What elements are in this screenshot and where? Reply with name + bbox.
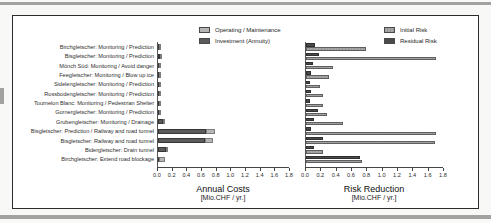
bar-operating xyxy=(160,54,162,59)
category-label: Birchgletscher: Monitoring / Prediction xyxy=(15,44,154,50)
bar-initial-risk xyxy=(306,141,435,144)
axis-tick-label: 1.0 xyxy=(226,172,234,178)
bar-residual-risk xyxy=(306,146,314,149)
axis-tick xyxy=(412,168,413,171)
legend-label: Residual Risk xyxy=(400,38,437,44)
bar-initial-risk xyxy=(306,122,343,125)
figure-canvas: Birchgletscher: Monitoring / PredictionB… xyxy=(0,0,491,223)
figure-frame: Birchgletscher: Monitoring / PredictionB… xyxy=(12,15,479,209)
page-edge-band-left xyxy=(0,88,4,104)
axis-tick xyxy=(336,168,337,171)
category-label: Feegletscher: Monitoring / Blow up ice xyxy=(15,72,154,78)
bar-operating xyxy=(159,157,165,162)
axis-tick-label: 0.2 xyxy=(168,172,176,178)
bar-operating xyxy=(159,110,161,115)
axis-tick-label: 1.0 xyxy=(378,172,386,178)
axis-tick xyxy=(351,168,352,171)
bar-initial-risk xyxy=(306,150,323,153)
bar-initial-risk xyxy=(306,66,333,69)
annual-costs-unit: [Mio.CHF / yr.] xyxy=(157,194,289,202)
annual-costs-title: Annual Costs xyxy=(157,184,289,194)
bar-initial-risk xyxy=(306,104,323,107)
axis-tick-label: 0.2 xyxy=(316,172,324,178)
axis-tick-label: 0.6 xyxy=(197,172,205,178)
risk-reduction-unit: [Mio.CHF / yr.] xyxy=(305,194,443,202)
axis-tick-label: 0.0 xyxy=(153,172,161,178)
axis-tick xyxy=(397,168,398,171)
legend-label: Operating / Maintenance xyxy=(215,27,281,33)
bar-residual-risk xyxy=(306,118,314,121)
axis-tick xyxy=(382,168,383,171)
category-label: Gornergletscher: Monitoring / Prediction xyxy=(15,109,154,115)
bar-initial-risk xyxy=(306,57,436,60)
legend-label: Investment (Annuity) xyxy=(215,38,270,44)
legend-swatch xyxy=(199,38,210,44)
bar-initial-risk xyxy=(306,47,366,50)
axis-tick-label: 1.2 xyxy=(393,172,401,178)
legend-item: Operating / Maintenance xyxy=(199,24,281,35)
category-label: Tournelon Blanc: Monitoring / Pedestrian… xyxy=(15,100,154,106)
bar-operating xyxy=(206,129,215,134)
bar-operating xyxy=(159,72,161,77)
bar-operating xyxy=(159,63,161,68)
category-label: Bisgletscher: Prediction / Railway and r… xyxy=(15,128,154,134)
bar-residual-risk xyxy=(306,156,360,159)
axis-tick xyxy=(230,168,231,171)
page-edge-band-bottom xyxy=(0,215,491,219)
axis-tick-label: 1.2 xyxy=(241,172,249,178)
axis-tick xyxy=(201,168,202,171)
bar-operating xyxy=(163,119,165,124)
axis-tick-label: 0.8 xyxy=(212,172,220,178)
axis-tick xyxy=(260,168,261,171)
axis-tick xyxy=(320,168,321,171)
axis-tick xyxy=(428,168,429,171)
bar-residual-risk xyxy=(306,90,311,93)
bar-operating xyxy=(159,44,161,49)
axis-tick xyxy=(245,168,246,171)
bar-operating xyxy=(166,147,168,152)
category-label: Bidergletscher: Drain tunnel xyxy=(15,147,154,153)
bar-operating xyxy=(159,82,161,87)
legend-swatch xyxy=(384,38,395,44)
category-label: Sidelengletscher: Monitoring / Predictio… xyxy=(15,81,154,87)
risk-reduction-title: Risk Reduction xyxy=(305,184,443,194)
legend-swatch xyxy=(199,27,210,33)
bar-residual-risk xyxy=(306,62,313,65)
axis-tick xyxy=(186,168,187,171)
category-label: Grubengletscher: Monitoring / Drainage xyxy=(15,119,154,125)
bar-investment xyxy=(158,138,205,143)
axis-tick-label: 1.4 xyxy=(256,172,264,178)
axis-tick-label: 1.6 xyxy=(424,172,432,178)
axis-tick xyxy=(366,168,367,171)
bar-initial-risk xyxy=(306,75,329,78)
axis-tick xyxy=(289,168,290,171)
bar-residual-risk xyxy=(306,71,311,74)
bar-initial-risk xyxy=(306,94,323,97)
axis-tick-label: 0.4 xyxy=(332,172,340,178)
bar-residual-risk xyxy=(306,109,318,112)
axis-tick xyxy=(274,168,275,171)
category-label: Bisgletscher: Railway and road tunnel xyxy=(15,138,154,144)
axis-tick-label: 0.4 xyxy=(182,172,190,178)
legend-label: Initial Risk xyxy=(400,27,427,33)
annual-costs-title-block: Annual Costs [Mio.CHF / yr.] xyxy=(157,184,289,202)
bar-initial-risk xyxy=(306,160,362,163)
risk-reduction-legend: Initial RiskResidual Risk xyxy=(384,24,437,46)
axis-tick-label: 1.6 xyxy=(270,172,278,178)
x-axis-line xyxy=(305,167,443,168)
axis-tick xyxy=(216,168,217,171)
bar-residual-risk xyxy=(306,43,315,46)
axis-tick-label: 0.8 xyxy=(362,172,370,178)
bar-operating xyxy=(205,138,213,143)
axis-tick xyxy=(305,168,306,171)
bar-residual-risk xyxy=(306,127,311,130)
category-label: Rossbodengletscher: Monitoring / Predict… xyxy=(15,91,154,97)
axis-tick xyxy=(172,168,173,171)
bar-investment xyxy=(158,129,206,134)
axis-tick-label: 1.8 xyxy=(439,172,447,178)
bar-residual-risk xyxy=(306,81,310,84)
risk-reduction-title-block: Risk Reduction [Mio.CHF / yr.] xyxy=(305,184,443,202)
bar-initial-risk xyxy=(306,85,320,88)
category-label: Bisgletscher: Monitoring / Prediction xyxy=(15,53,154,59)
annual-costs-legend: Operating / MaintenanceInvestment (Annui… xyxy=(199,24,281,46)
